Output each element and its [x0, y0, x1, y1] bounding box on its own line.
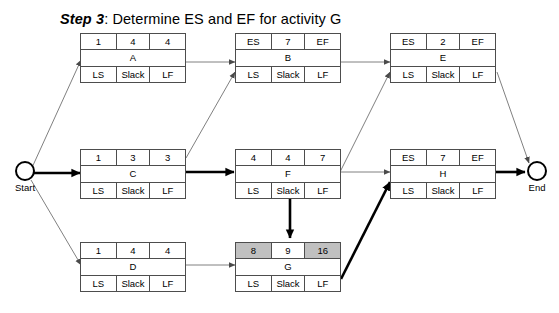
node-d-ef: 4	[150, 243, 185, 258]
node-a-ef: 4	[150, 34, 185, 49]
node-c-ls: LS	[81, 183, 116, 198]
node-e-ls: LS	[391, 67, 426, 82]
node-h-duration: 7	[426, 150, 461, 165]
activity-node-e[interactable]: ES 2 EF E LS Slack LF	[390, 33, 496, 83]
activity-node-h[interactable]: ES 7 EF H LS Slack LF	[390, 149, 496, 199]
node-d-duration: 4	[116, 243, 151, 258]
node-d-lf: LF	[150, 276, 185, 291]
activity-node-d[interactable]: 1 4 4 D LS Slack LF	[80, 242, 186, 292]
activity-node-g[interactable]: 8 9 16 G LS Slack LF	[235, 242, 341, 292]
node-e-top-row: ES 2 EF	[391, 34, 495, 50]
node-c-duration: 3	[116, 150, 151, 165]
node-a-top-row: 1 4 4	[81, 34, 185, 50]
node-f-name: F	[236, 166, 340, 182]
node-d-es: 1	[81, 243, 116, 258]
node-a-name: A	[81, 50, 185, 66]
node-a-es: 1	[81, 34, 116, 49]
node-h-ef: EF	[460, 150, 495, 165]
node-a-bottom-row: LS Slack LF	[81, 66, 185, 82]
node-f-top-row: 4 4 7	[236, 150, 340, 166]
node-f-slack: Slack	[271, 183, 306, 198]
activity-node-b[interactable]: ES 7 EF B LS Slack LF	[235, 33, 341, 83]
edge-f-e	[340, 72, 390, 172]
node-b-lf: LF	[305, 67, 340, 82]
node-e-slack: Slack	[426, 67, 461, 82]
node-d-name: D	[81, 259, 185, 275]
node-g-duration: 9	[271, 243, 306, 258]
node-f-duration: 4	[271, 150, 306, 165]
node-h-bottom-row: LS Slack LF	[391, 182, 495, 198]
node-f-ef: 7	[305, 150, 340, 165]
node-h-ls: LS	[391, 183, 426, 198]
node-h-slack: Slack	[426, 183, 461, 198]
node-a-slack: Slack	[116, 67, 151, 82]
node-f-es: 4	[236, 150, 271, 165]
node-c-lf: LF	[150, 183, 185, 198]
activity-node-f[interactable]: 4 4 7 F LS Slack LF	[235, 149, 341, 199]
node-b-slack: Slack	[271, 67, 306, 82]
node-e-name: E	[391, 50, 495, 66]
start-circle	[15, 161, 35, 181]
node-e-bottom-row: LS Slack LF	[391, 66, 495, 82]
node-c-slack: Slack	[116, 183, 151, 198]
node-g-ef: 16	[305, 243, 340, 258]
node-e-es: ES	[391, 34, 426, 49]
activity-node-c[interactable]: 1 3 3 C LS Slack LF	[80, 149, 186, 199]
node-b-ef: EF	[305, 34, 340, 49]
node-c-top-row: 1 3 3	[81, 150, 185, 166]
node-d-top-row: 1 4 4	[81, 243, 185, 259]
node-b-duration: 7	[271, 34, 306, 49]
node-f-lf: LF	[305, 183, 340, 198]
node-d-ls: LS	[81, 276, 116, 291]
network-diagram-canvas: Step 3: Determine ES and EF for activity…	[0, 0, 559, 313]
node-h-lf: LF	[460, 183, 495, 198]
page-title-step: Step 3	[60, 11, 104, 27]
node-e-duration: 2	[426, 34, 461, 49]
node-b-top-row: ES 7 EF	[236, 34, 340, 50]
edge-c-b	[186, 72, 235, 158]
node-c-es: 1	[81, 150, 116, 165]
node-e-lf: LF	[460, 67, 495, 82]
node-a-ls: LS	[81, 67, 116, 82]
node-e-ef: EF	[460, 34, 495, 49]
page-title: Step 3: Determine ES and EF for activity…	[60, 11, 341, 27]
page-title-rest: : Determine ES and EF for activity G	[104, 11, 341, 27]
node-g-name: G	[236, 259, 340, 275]
node-g-lf: LF	[305, 276, 340, 291]
node-b-ls: LS	[236, 67, 271, 82]
node-f-bottom-row: LS Slack LF	[236, 182, 340, 198]
node-f-ls: LS	[236, 183, 271, 198]
node-c-name: C	[81, 166, 185, 182]
node-b-bottom-row: LS Slack LF	[236, 66, 340, 82]
edge-start-d	[31, 180, 81, 265]
node-c-ef: 3	[150, 150, 185, 165]
node-a-lf: LF	[150, 67, 185, 82]
node-h-top-row: ES 7 EF	[391, 150, 495, 166]
node-d-bottom-row: LS Slack LF	[81, 275, 185, 291]
edge-g-h	[341, 182, 390, 279]
node-g-slack: Slack	[271, 276, 306, 291]
node-d-slack: Slack	[116, 276, 151, 291]
start-label: Start	[12, 182, 38, 194]
node-h-es: ES	[391, 150, 426, 165]
end-circle	[527, 161, 547, 181]
node-g-es: 8	[236, 243, 271, 258]
start-node[interactable]: Start	[12, 161, 38, 194]
node-h-name: H	[391, 166, 495, 182]
node-b-name: B	[236, 50, 340, 66]
end-label: End	[524, 182, 550, 194]
node-c-bottom-row: LS Slack LF	[81, 182, 185, 198]
end-node[interactable]: End	[524, 161, 550, 194]
node-a-duration: 4	[116, 34, 151, 49]
activity-node-a[interactable]: 1 4 4 A LS Slack LF	[80, 33, 186, 83]
node-b-es: ES	[236, 34, 271, 49]
edge-e-end	[497, 72, 529, 163]
edge-start-a	[30, 60, 81, 172]
node-g-bottom-row: LS Slack LF	[236, 275, 340, 291]
node-g-top-row: 8 9 16	[236, 243, 340, 259]
node-g-ls: LS	[236, 276, 271, 291]
